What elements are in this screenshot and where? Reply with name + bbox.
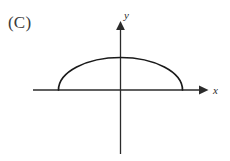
y-axis-label: y [123,9,129,21]
coordinate-plot: y x [0,0,230,161]
y-axis-arrowhead-icon [116,21,125,30]
x-axis-arrowhead-icon [199,86,209,95]
figure-container: (C) y x [0,0,230,161]
x-axis-label: x [212,84,218,96]
